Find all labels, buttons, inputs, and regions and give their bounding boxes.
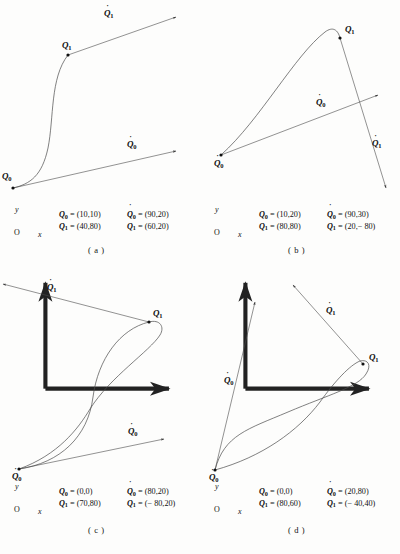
label-q1dot-a: ˙Q1	[104, 9, 114, 18]
caption-a: ( a )	[88, 245, 105, 255]
data-cell-q0-c: Q0 = (0,0)	[59, 486, 125, 498]
data-cell-q0-b: Q0 = (10,20)	[259, 209, 325, 221]
data-row: Q1 = (40,80) ˙Q1 = (60,20)	[59, 221, 169, 233]
point-q1-b	[338, 36, 341, 39]
data-block-c: Q0 = (0,0) ˙Q0 = (80,20) Q1 = (70,80) ˙Q…	[59, 486, 175, 509]
data-cell-q1dot-a: ˙Q1 = (60,20)	[127, 221, 169, 233]
label-q0dot-a: ˙Q0	[127, 140, 137, 149]
hermite-curves-figure: Q0 Q1 ˙Q0 ˙Q1 y O x	[0, 0, 400, 554]
data-row: Q0 = (10,10) ˙Q0 = (90,20)	[59, 209, 169, 221]
tangent-q0-a	[13, 151, 176, 188]
data-row: Q1 = (80,60) ˙Q1 = (− 40,40)	[259, 498, 375, 510]
tangent-q1-d	[293, 285, 363, 364]
tangent-q1-a	[68, 17, 176, 55]
axis-origin-label-b: O	[214, 229, 220, 237]
data-row: Q1 = (70,80) ˙Q1 = (− 80,20)	[59, 498, 175, 510]
data-cell-q1-c: Q1 = (70,80)	[59, 498, 125, 510]
curve-d	[215, 361, 369, 470]
label-q0-b: ˙Q0	[214, 159, 224, 168]
axis-key-a: y O x	[16, 209, 50, 239]
label-q0dot-b: ˙Q0	[316, 98, 326, 107]
axis-x-label-c: x	[38, 508, 42, 516]
axis-y-label-a: y	[15, 206, 19, 214]
panel-b: ˙Q0 Q1 ˙Q0 ˙Q1 y O x	[200, 0, 400, 277]
label-q0dot-d: ˙Q0	[224, 376, 234, 385]
data-row: Q0 = (0,0) ˙Q0 = (20,80)	[259, 486, 375, 498]
curve-c	[19, 321, 162, 469]
panel-a: Q0 Q1 ˙Q0 ˙Q1 y O x	[0, 0, 200, 277]
point-q1-a	[66, 53, 69, 56]
caption-d: ( d )	[288, 525, 305, 535]
tangent-q1-c	[3, 284, 149, 322]
label-q1dot-d: ˙Q1	[326, 306, 336, 315]
axis-key-c: y O x	[16, 486, 50, 516]
data-cell-q1dot-c: ˙Q1 = (− 80,20)	[127, 498, 175, 510]
label-q1-c: Q1	[153, 309, 163, 318]
data-cell-q0-d: Q0 = (0,0)	[259, 486, 325, 498]
label-q1dot-c: ˙Q1	[47, 283, 57, 292]
tangent-q0-b	[221, 95, 378, 155]
data-cell-q1-a: Q1 = (40,80)	[59, 221, 125, 233]
label-q0-c: ˙Q0	[12, 472, 22, 481]
data-cell-q0dot-a: ˙Q0 = (90,20)	[127, 209, 169, 221]
data-cell-q1dot-d: ˙Q1 = (− 40,40)	[327, 498, 375, 510]
tangent-q1-b	[340, 38, 386, 188]
axis-origin-label-c: O	[14, 506, 20, 514]
tangent-q0-c	[19, 439, 164, 469]
point-q0-b	[219, 153, 222, 156]
data-cell-q0dot-b: ˙Q0 = (90,30)	[327, 209, 369, 221]
axis-origin-label-a: O	[14, 229, 20, 237]
axis-key-d: y O x	[216, 486, 250, 516]
point-q1-d	[361, 362, 364, 365]
point-q0-a	[11, 186, 14, 189]
data-block-b: Q0 = (10,20) ˙Q0 = (90,30) Q1 = (80,80) …	[259, 209, 375, 232]
tangent-q0-d	[215, 302, 255, 470]
axis-y-label-d: y	[215, 483, 219, 491]
data-cell-q1-b: Q1 = (80,80)	[259, 221, 325, 233]
axis-origin-label-d: O	[214, 506, 220, 514]
data-cell-q0dot-c: ˙Q0 = (80,20)	[127, 486, 169, 498]
axis-y-label-c: y	[15, 483, 19, 491]
curve-a	[13, 55, 68, 188]
data-cell-q0-a: Q0 = (10,10)	[59, 209, 125, 221]
label-q0-a: Q0	[2, 172, 12, 181]
data-row: Q0 = (0,0) ˙Q0 = (80,20)	[59, 486, 175, 498]
label-q1dot-b: ˙Q1	[372, 139, 382, 148]
data-block-d: Q0 = (0,0) ˙Q0 = (20,80) Q1 = (80,60) ˙Q…	[259, 486, 375, 509]
curve-b	[221, 29, 340, 155]
data-row: Q0 = (10,20) ˙Q0 = (90,30)	[259, 209, 375, 221]
axis-x-label-a: x	[38, 231, 42, 239]
label-q0-d: ˙Q0	[209, 473, 219, 482]
panel-c: ˙Q0 Q1 ˙Q0 ˙Q1 y O x	[0, 277, 200, 554]
point-q1-c	[147, 320, 150, 323]
panel-d: ˙Q0 Q1 ˙Q0 ˙Q1 y O x	[200, 277, 400, 554]
data-block-a: Q0 = (10,10) ˙Q0 = (90,20) Q1 = (40,80) …	[59, 209, 169, 232]
caption-c: ( c )	[88, 525, 105, 535]
label-q1-a: Q1	[62, 41, 72, 50]
axis-key-b: y O x	[216, 209, 250, 239]
axis-x-label-b: x	[238, 231, 242, 239]
caption-b: ( b )	[288, 245, 305, 255]
axis-x-label-d: x	[238, 508, 242, 516]
label-q1-d: Q1	[369, 353, 379, 362]
data-row: Q1 = (80,80) ˙Q1 = (20,− 80)	[259, 221, 375, 233]
data-cell-q1-d: Q1 = (80,60)	[259, 498, 325, 510]
data-cell-q1dot-b: ˙Q1 = (20,− 80)	[327, 221, 375, 233]
label-q0dot-c: ˙Q0	[128, 427, 138, 436]
data-cell-q0dot-d: ˙Q0 = (20,80)	[327, 486, 369, 498]
label-q1-b: Q1	[345, 25, 355, 34]
axis-y-label-b: y	[215, 206, 219, 214]
